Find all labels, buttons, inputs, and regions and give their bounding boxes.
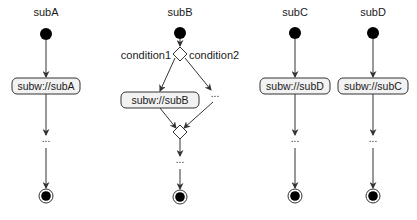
column-subD: subD subw://subC ...: [338, 6, 408, 203]
initial-node-icon: [40, 28, 52, 40]
initial-node-icon: [289, 27, 301, 39]
edge: [160, 108, 176, 128]
column-subC: subC subw://subD ...: [260, 6, 330, 203]
branch-label-condition2: condition2: [189, 49, 239, 61]
column-subB: subB condition1 condition2 subw://subB .…: [121, 6, 239, 204]
final-node-inner-icon: [368, 191, 378, 201]
column-subA: subA subw://subA ...: [12, 6, 80, 203]
ellipsis-label: ...: [291, 133, 299, 144]
ellipsis-label: ...: [176, 154, 184, 165]
edge: [185, 58, 211, 90]
column-title-subC: subC: [282, 6, 308, 18]
final-node-inner-icon: [41, 191, 51, 201]
action-label: subw://subA: [17, 80, 74, 92]
action-label: subw://subC: [344, 80, 402, 92]
column-title-subD: subD: [360, 6, 386, 18]
edge: [160, 58, 175, 91]
final-node-inner-icon: [175, 192, 185, 202]
column-title-subA: subA: [33, 6, 59, 18]
ellipsis-label: ...: [369, 133, 377, 144]
branch-label-condition1: condition1: [121, 49, 171, 61]
ellipsis-label: ...: [211, 88, 219, 99]
action-label: subw://subB: [131, 94, 188, 106]
initial-node-icon: [174, 27, 186, 39]
activity-diagram: subA subw://subA ... subB condition1 con…: [0, 0, 417, 220]
column-title-subB: subB: [167, 6, 192, 18]
action-label: subw://subD: [266, 80, 324, 92]
final-node-inner-icon: [290, 191, 300, 201]
ellipsis-label: ...: [42, 133, 50, 144]
initial-node-icon: [367, 27, 379, 39]
